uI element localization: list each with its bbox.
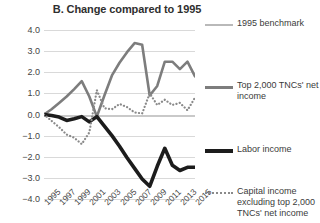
y-axis-tick-label: 2.0 — [14, 67, 40, 77]
chart-legend: 1995 benchmarkTop 2,000 TNCs' net income… — [205, 18, 320, 218]
legend-swatch-icon — [205, 145, 233, 157]
chart-figure: B. Change compared to 1995 Percentage of… — [0, 0, 320, 223]
y-axis-tick-label: −4.0 — [14, 194, 40, 204]
series-line — [44, 43, 195, 117]
legend-swatch-icon — [205, 187, 233, 199]
series-line — [44, 90, 195, 144]
y-axis-tick-label: 4.0 — [14, 25, 40, 35]
legend-label: Capital income excluding top 2,000 TNCs'… — [237, 186, 320, 219]
y-axis-tick-label: 3.0 — [14, 46, 40, 56]
legend-swatch-icon — [205, 19, 233, 31]
y-axis-tick-label: −3.0 — [14, 173, 40, 183]
y-axis-tick-label: 0.0 — [14, 110, 40, 120]
y-axis-tick-label: −2.0 — [14, 152, 40, 162]
x-axis-tick-labels: 1995199719992001200320052007200920112013… — [44, 200, 195, 223]
legend-label: Top 2,000 TNCs' net income — [237, 80, 320, 102]
legend-item[interactable]: Labor income — [205, 144, 320, 157]
plot-area: 4.03.02.01.00.0−1.0−2.0−3.0−4.0 — [44, 30, 195, 199]
chart-title: B. Change compared to 1995 — [52, 3, 202, 15]
legend-item[interactable]: 1995 benchmark — [205, 18, 320, 31]
legend-label: 1995 benchmark — [237, 18, 304, 29]
series-lines — [44, 30, 195, 199]
legend-label: Labor income — [237, 144, 292, 155]
series-line — [44, 115, 195, 187]
legend-swatch-icon — [205, 81, 233, 93]
legend-item[interactable]: Top 2,000 TNCs' net income — [205, 80, 320, 102]
y-axis-tick-label: 1.0 — [14, 88, 40, 98]
legend-item[interactable]: Capital income excluding top 2,000 TNCs'… — [205, 186, 320, 219]
y-axis-tick-label: −1.0 — [14, 131, 40, 141]
